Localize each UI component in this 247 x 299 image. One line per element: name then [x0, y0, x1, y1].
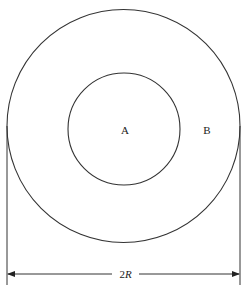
concentric-circles-diagram: A B 2R	[0, 0, 247, 299]
label-region-b: B	[203, 124, 210, 136]
dimension-variable: R	[124, 268, 132, 280]
label-region-a: A	[121, 124, 129, 136]
dimension-label-2r: 2R	[119, 268, 132, 280]
